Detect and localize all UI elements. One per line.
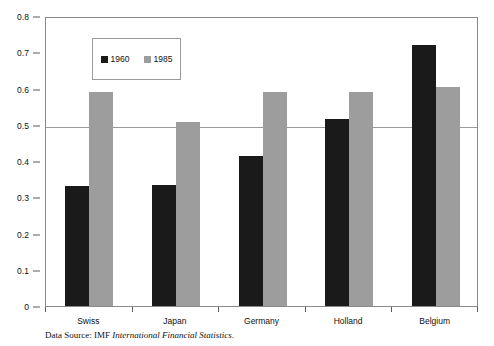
y-tick-mark bbox=[33, 198, 40, 199]
legend-label-1960: 1960 bbox=[111, 54, 130, 64]
x-tick-mark bbox=[132, 307, 133, 312]
x-category-label-germany: Germany bbox=[244, 316, 279, 326]
x-category-label-japan: Japan bbox=[163, 316, 186, 326]
bar-swiss-1985 bbox=[89, 92, 113, 306]
bar-belgium-1985 bbox=[436, 87, 460, 306]
x-category-label-holland: Holland bbox=[334, 316, 363, 326]
x-tick-mark bbox=[391, 307, 392, 312]
y-tick-label: 0.7 bbox=[17, 48, 29, 58]
bar-germany-1985 bbox=[263, 92, 287, 306]
x-tick-mark bbox=[45, 307, 46, 312]
legend-swatch-icon-1960 bbox=[101, 56, 108, 63]
x-tick-mark bbox=[477, 307, 478, 312]
y-tick-mark bbox=[33, 89, 40, 90]
x-category-label-swiss: Swiss bbox=[77, 316, 99, 326]
y-tick-mark bbox=[33, 162, 40, 163]
y-tick-mark bbox=[33, 53, 40, 54]
caption-prefix: Data Source: IMF bbox=[45, 330, 112, 340]
y-axis: 00.10.20.30.40.50.60.70.8 bbox=[0, 17, 40, 307]
legend: 19601985 bbox=[92, 38, 181, 80]
x-tick-mark bbox=[305, 307, 306, 312]
y-tick-mark bbox=[33, 125, 40, 126]
y-tick-label: 0.1 bbox=[17, 266, 29, 276]
caption-suffix: . bbox=[232, 330, 234, 340]
bar-germany-1960 bbox=[239, 156, 263, 306]
y-tick-mark bbox=[33, 270, 40, 271]
bar-holland-1960 bbox=[325, 119, 349, 306]
y-tick-label: 0.3 bbox=[17, 193, 29, 203]
bar-belgium-1960 bbox=[412, 45, 436, 306]
chart-page: 00.10.20.30.40.50.60.70.8 19601985 Swiss… bbox=[0, 0, 494, 346]
y-tick-label: 0.6 bbox=[17, 85, 29, 95]
x-tick-mark bbox=[218, 307, 219, 312]
y-tick-label: 0.4 bbox=[17, 157, 29, 167]
y-tick-label: 0 bbox=[24, 302, 29, 312]
legend-entry-1960: 1960 bbox=[101, 54, 130, 64]
source-caption: Data Source: IMF International Financial… bbox=[45, 330, 234, 340]
legend-swatch-icon-1985 bbox=[144, 56, 151, 63]
y-tick-label: 0.5 bbox=[17, 121, 29, 131]
x-category-label-belgium: Belgium bbox=[419, 316, 450, 326]
y-tick-mark bbox=[33, 17, 40, 18]
bar-japan-1960 bbox=[152, 185, 176, 306]
legend-label-1985: 1985 bbox=[154, 54, 173, 64]
y-tick-mark bbox=[33, 234, 40, 235]
y-tick-label: 0.8 bbox=[17, 12, 29, 22]
y-tick-label: 0.2 bbox=[17, 230, 29, 240]
caption-source-title: International Financial Statistics bbox=[112, 330, 232, 340]
y-tick-mark bbox=[33, 307, 40, 308]
bar-holland-1985 bbox=[349, 92, 373, 306]
legend-entries: 19601985 bbox=[93, 54, 180, 64]
bar-japan-1985 bbox=[176, 122, 200, 306]
legend-entry-1985: 1985 bbox=[144, 54, 173, 64]
bar-swiss-1960 bbox=[65, 186, 89, 306]
